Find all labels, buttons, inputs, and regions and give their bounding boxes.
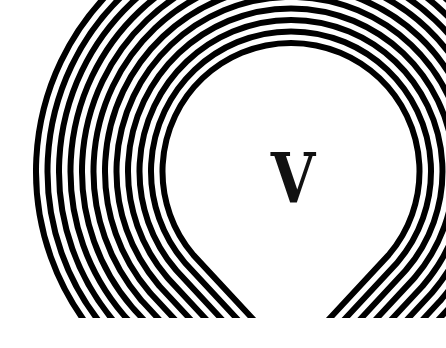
concentric-teardrop-stripes xyxy=(0,0,446,348)
center-letter: V xyxy=(260,138,326,218)
